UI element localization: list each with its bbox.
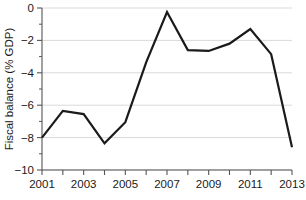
x-axis-tick-label: 2007: [154, 178, 180, 190]
y-axis-tick-label: −6: [21, 99, 34, 111]
y-axis-tick-label: −4: [21, 67, 35, 79]
y-axis-tick-label: −2: [21, 34, 34, 46]
y-axis-tick-label: 0: [28, 2, 34, 14]
y-axis-tick-label: −8: [21, 132, 34, 144]
y-axis-tick-label: −10: [14, 164, 34, 176]
y-axis-title: Fiscal balance (% GDP): [3, 27, 15, 150]
x-axis-tick-label: 2003: [71, 178, 97, 190]
x-axis-tick-label: 2005: [113, 178, 139, 190]
chart-container: 0−2−4−6−8−10 200120032005200720092011201…: [0, 0, 306, 200]
x-axis-tick-label: 2009: [196, 178, 222, 190]
fiscal-balance-line-chart: 0−2−4−6−8−10 200120032005200720092011201…: [0, 0, 306, 200]
x-axis-tick-label: 2011: [238, 178, 263, 190]
x-axis-tick-label: 2013: [279, 178, 305, 190]
x-axis-tick-label: 2001: [29, 178, 55, 190]
